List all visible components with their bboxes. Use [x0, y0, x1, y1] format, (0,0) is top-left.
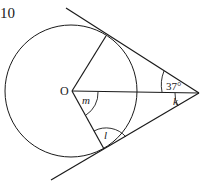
circle [5, 25, 137, 157]
angle-arc-37 [161, 71, 164, 92]
angle-label-l: l [104, 129, 107, 141]
upper-radius [72, 36, 106, 91]
geometry-diagram: 10 O 37° k m l [0, 0, 205, 186]
angle-label-m: m [82, 94, 90, 106]
angle-arc-l [94, 128, 126, 137]
problem-number: 10 [0, 5, 15, 21]
angle-label-37: 37° [166, 80, 181, 92]
center-label: O [60, 84, 69, 98]
